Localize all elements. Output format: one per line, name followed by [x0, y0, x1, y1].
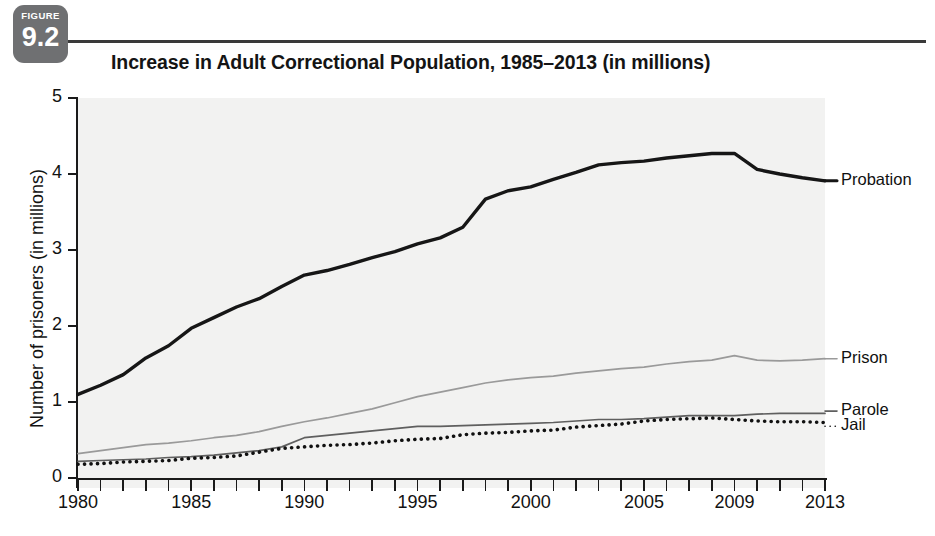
source-note [14, 524, 924, 536]
figure-badge-word: FIGURE [13, 11, 68, 21]
page-title: Increase in Adult Correctional Populatio… [111, 51, 711, 74]
series-label-jail: Jail [841, 415, 866, 434]
series-line-probation [78, 153, 825, 394]
series-label-prison: Prison [841, 348, 888, 367]
series-label-probation: Probation [841, 170, 912, 189]
chart-plot-lines [0, 88, 935, 508]
figure-badge-number: 9.2 [13, 22, 68, 52]
header-divider [68, 40, 926, 43]
figure-badge: FIGURE 9.2 [13, 5, 68, 63]
series-line-parole [78, 413, 825, 461]
series-line-prison [78, 356, 825, 454]
chart-container: Number of prisoners (in millions) 012345… [0, 88, 935, 508]
